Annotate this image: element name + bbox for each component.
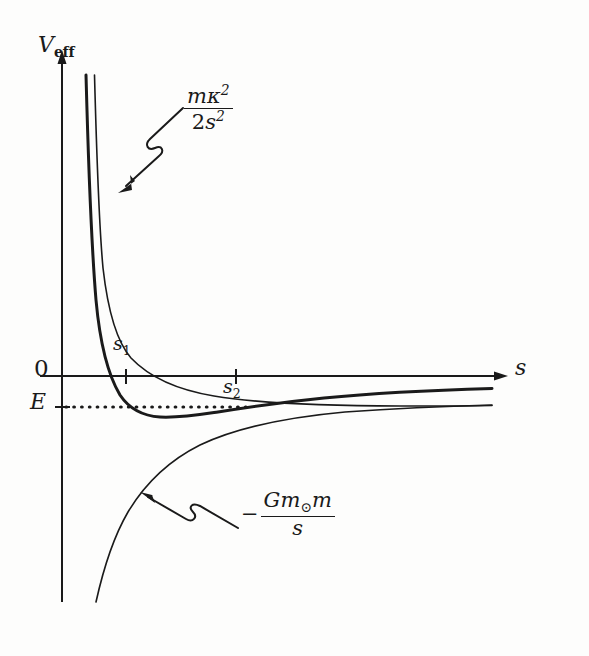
centrifugal-pointer-arrow [118, 108, 183, 193]
gravity-pointer-arrow [140, 492, 238, 528]
gravity-denominator: s [261, 516, 335, 539]
gravity-numerator: Gm⊙m [261, 490, 335, 516]
origin-label: 0 [34, 357, 49, 380]
tick-label-s1-base: s [113, 332, 123, 354]
centrifugal-m: m [187, 84, 207, 108]
centrifugal-kappa: κ [207, 84, 221, 108]
centrifugal-denominator: 2s2 [184, 108, 233, 133]
x-axis-label: s [515, 357, 526, 379]
gravity-m: m [312, 488, 332, 512]
centrifugal-denominator-exponent: 2 [216, 108, 225, 124]
sun-symbol-icon: ⊙ [300, 499, 312, 515]
effective-potential-curve [86, 75, 492, 417]
y-axis [58, 50, 67, 602]
tick-label-s2: s2 [223, 377, 241, 400]
tick-label-s1: s1 [113, 334, 131, 357]
tick-label-s1-sub: 1 [123, 343, 131, 358]
centrifugal-two: 2 [192, 110, 205, 134]
tick-label-s2-sub: 2 [233, 386, 241, 401]
energy-label: E [30, 391, 46, 413]
centrifugal-numerator: mκ2 [184, 84, 233, 108]
gravity-minus-sign: − [241, 502, 261, 526]
centrifugal-fraction: mκ2 2s2 [184, 84, 233, 133]
gravity-fraction: Gm⊙m s [261, 490, 335, 539]
centrifugal-curve [95, 75, 493, 406]
y-axis-label-main: V [38, 32, 54, 57]
gravity-G: G [264, 488, 281, 512]
tick-label-s2-base: s [223, 375, 233, 397]
centrifugal-term-label: mκ2 2s2 [184, 84, 233, 133]
y-axis-label-sub: eff [54, 44, 74, 60]
y-axis-label: Veff [38, 34, 74, 59]
centrifugal-s: s [205, 110, 216, 134]
gravity-term-label: − Gm⊙m s [241, 490, 335, 539]
potential-plot-svg [0, 0, 589, 656]
effective-potential-figure: Veff s 0 E s1 s2 mκ2 2s2 − Gm⊙m s [0, 0, 589, 656]
centrifugal-numerator-exponent: 2 [221, 82, 230, 98]
gravity-m-sun: m [280, 488, 300, 512]
